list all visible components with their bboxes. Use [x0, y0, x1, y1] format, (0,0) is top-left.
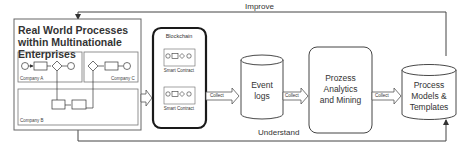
- event-logs-line1: Event: [241, 80, 283, 91]
- collect-label-3: Collect: [375, 93, 389, 98]
- smart-contract-2-label: Smart Contract: [153, 106, 205, 111]
- event-logs-line2: logs: [241, 91, 283, 102]
- diagram-shapes: [0, 0, 469, 149]
- analytics-label: Prozess Analytics and Mining: [309, 73, 372, 106]
- company-b-label: Company B: [20, 118, 44, 123]
- collect-label-2: Collect: [285, 93, 299, 98]
- models-line2: Models &: [402, 91, 456, 102]
- smart-contract-2: [164, 87, 195, 104]
- collect-label-1: Collect: [210, 93, 224, 98]
- enterprise-title: Real World Processes within Multinationa…: [18, 24, 140, 60]
- company-c-label: Company C: [111, 76, 135, 81]
- models-line3: Templates: [402, 102, 456, 113]
- process-diagram: Improve Understand Real World Processes …: [0, 0, 469, 149]
- blockchain-title: Blockchain: [153, 33, 205, 39]
- improve-label: Improve: [245, 2, 274, 11]
- event-logs-label: Event logs: [241, 80, 283, 102]
- analytics-line1: Prozess: [309, 73, 372, 84]
- hollow-arrow-1: [141, 90, 152, 106]
- models-line1: Process: [402, 80, 456, 91]
- analytics-line2: Analytics: [309, 84, 372, 95]
- company-a-label: Company A: [20, 76, 43, 81]
- smart-contract-1: [164, 49, 195, 66]
- understand-label: Understand: [258, 128, 299, 137]
- analytics-line3: and Mining: [309, 95, 372, 106]
- models-label: Process Models & Templates: [402, 80, 456, 113]
- blockchain-box: [153, 28, 206, 128]
- smart-contract-1-label: Smart Contract: [153, 68, 205, 73]
